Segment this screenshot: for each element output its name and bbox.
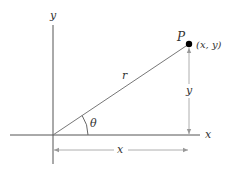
x-axis-label: x <box>205 128 212 141</box>
angle-label: θ <box>90 117 97 130</box>
angle-arc <box>82 116 88 136</box>
radius-line <box>53 44 189 135</box>
vertical-dimension-label: y <box>185 84 193 97</box>
radius-label: r <box>122 69 128 82</box>
horizontal-dimension-label: x <box>117 143 124 156</box>
point-name-label: P <box>176 30 186 44</box>
y-axis-label: y <box>49 9 57 22</box>
polar-coordinate-diagram: y x P (x, y) r θ y x <box>0 0 226 171</box>
point-p-marker <box>186 41 192 47</box>
point-coords-label: (x, y) <box>196 39 222 50</box>
